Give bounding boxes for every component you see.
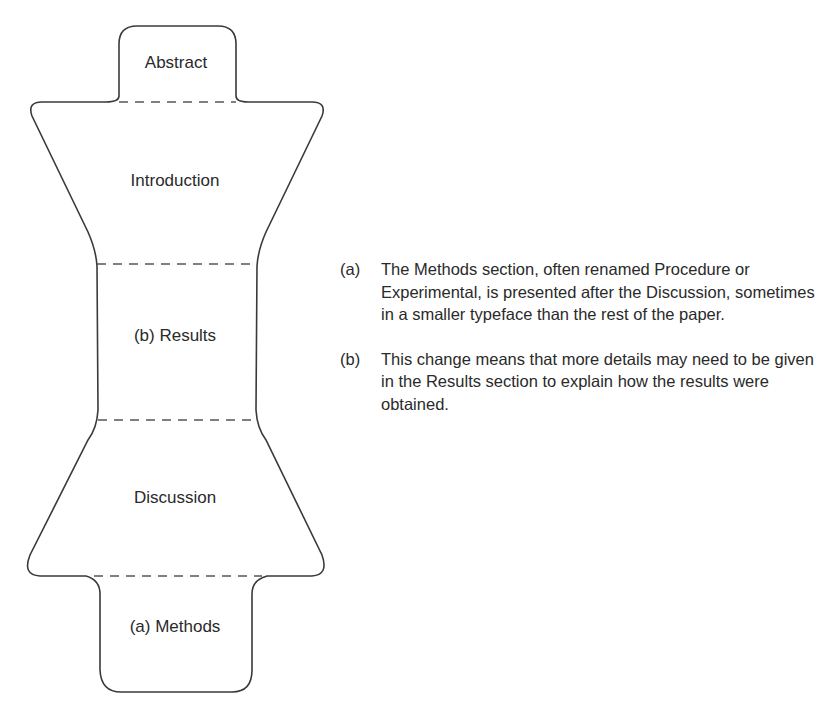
section-label-results: (b) Results (134, 326, 216, 346)
section-label-discussion: Discussion (134, 488, 216, 508)
notes-panel: (a)The Methods section, often renamed Pr… (340, 258, 820, 437)
section-label-methods: (a) Methods (130, 617, 221, 637)
note-marker: (b) (340, 348, 381, 371)
note-b: (b)This change means that more details m… (340, 348, 820, 416)
note-marker: (a) (340, 258, 381, 281)
hourglass-outline (28, 26, 325, 692)
section-label-abstract: Abstract (145, 53, 207, 73)
note-text: This change means that more details may … (381, 350, 814, 413)
note-a: (a)The Methods section, often renamed Pr… (340, 258, 820, 326)
section-label-introduction: Introduction (131, 171, 220, 191)
note-text: The Methods section, often renamed Proce… (381, 260, 815, 323)
